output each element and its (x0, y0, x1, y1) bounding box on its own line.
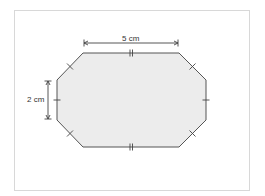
height-label: 2 cm (27, 96, 44, 104)
width-label: 5 cm (122, 35, 139, 43)
height-dimension-arrow (45, 81, 52, 119)
octagon-shape (57, 53, 206, 147)
